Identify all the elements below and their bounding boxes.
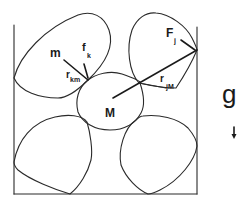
label-F-j: F: [166, 26, 173, 40]
particle-contact-diagram: m f k r km M F j r jM g: [0, 0, 249, 204]
label-r-jM-subscript: jM: [165, 83, 174, 91]
label-r-jM: r: [160, 73, 164, 84]
particle-bottom-left: [14, 115, 92, 194]
label-gravity: g: [222, 79, 236, 109]
label-M: M: [105, 106, 115, 120]
f-k-vector: [84, 64, 88, 78]
f-j-vector: [181, 40, 195, 50]
label-f-k-subscript: k: [87, 52, 91, 59]
particle-bottom-right: [120, 116, 197, 195]
label-f-k: f: [82, 41, 86, 53]
label-F-j-subscript: j: [173, 37, 176, 45]
label-m: m: [50, 46, 61, 60]
gravity-arrow-icon: [232, 127, 237, 139]
particle-top-left: [14, 13, 111, 98]
label-r-km-subscript: km: [70, 76, 80, 83]
